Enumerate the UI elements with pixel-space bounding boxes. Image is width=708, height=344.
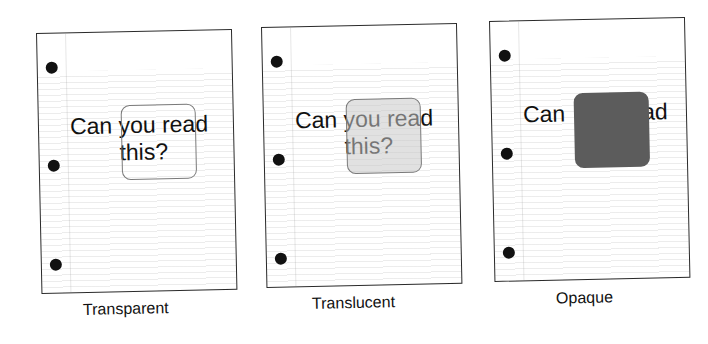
sample-text-visible-left: Can (523, 100, 566, 127)
binder-hole-icon (499, 50, 511, 62)
opaque-overlay-panel (574, 92, 651, 169)
caption-translucent: Translucent (312, 293, 395, 313)
binder-hole-icon (48, 160, 60, 172)
transparent-overlay-panel (121, 104, 198, 181)
binder-hole-icon (46, 62, 58, 74)
binder-hole-icon (275, 253, 287, 265)
translucent-overlay-panel (346, 98, 423, 175)
caption-transparent: Transparent (83, 299, 169, 319)
notebook-page-opaque: Canad (489, 17, 690, 282)
caption-opaque: Opaque (556, 288, 613, 307)
binder-hole-icon (50, 259, 62, 271)
notebook-page-translucent: Can you read this? (261, 23, 462, 288)
binder-hole-icon (501, 148, 513, 160)
binder-hole-icon (503, 247, 515, 259)
binder-hole-icon (273, 154, 285, 166)
transparency-comparison-figure: Can you read this? Transparent Can you r… (0, 0, 708, 344)
notebook-page-transparent: Can you read this? (36, 29, 237, 294)
binder-hole-icon (271, 56, 283, 68)
